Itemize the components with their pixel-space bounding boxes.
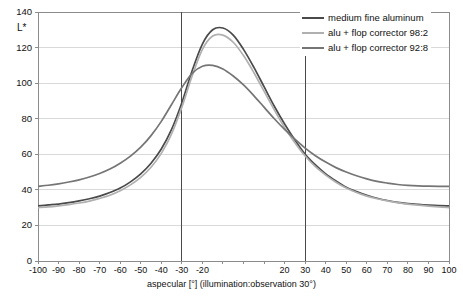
y-tick-label: 20 [4, 219, 32, 230]
x-axis-title: aspecular [°] (illumination:observation … [0, 279, 463, 289]
y-tick-label: 140 [4, 6, 32, 17]
y-tick-label: 60 [4, 148, 32, 159]
x-tick-label: -20 [190, 265, 214, 275]
y-tick-label: 40 [4, 184, 32, 195]
legend-item-medium-fine-aluminum: medium fine aluminum [302, 11, 428, 24]
y-tick-label: 100 [4, 77, 32, 88]
chart-legend: medium fine aluminum alu + flop correcto… [300, 9, 431, 56]
legend-swatch-alu-flop-corrector-98-2 [302, 32, 324, 34]
y-tick-label: 120 [4, 42, 32, 53]
x-tick-label: 100 [437, 265, 461, 275]
legend-label-medium-fine-aluminum: medium fine aluminum [328, 12, 424, 23]
legend-swatch-medium-fine-aluminum [302, 17, 324, 19]
legend-swatch-alu-flop-corrector-92-8 [302, 47, 324, 49]
chart-container: L* 020406080100120140 -100-90-80-70-60-5… [0, 0, 463, 299]
legend-label-alu-flop-corrector-92-8: alu + flop corrector 92:8 [328, 42, 428, 53]
series-line-1 [38, 34, 449, 207]
y-axis-title: L* [17, 22, 26, 33]
y-tick-label: 80 [4, 113, 32, 124]
legend-item-alu-flop-corrector-92-8: alu + flop corrector 92:8 [302, 41, 428, 54]
legend-label-alu-flop-corrector-98-2: alu + flop corrector 98:2 [328, 27, 428, 38]
legend-item-alu-flop-corrector-98-2: alu + flop corrector 98:2 [302, 26, 428, 39]
